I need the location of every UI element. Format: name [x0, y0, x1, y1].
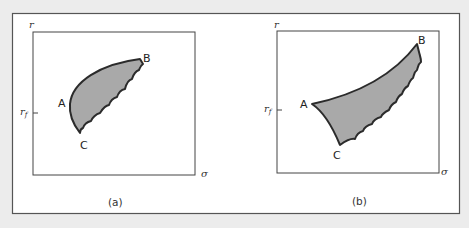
point-c-label-b: C [333, 149, 341, 162]
point-a-label-a: A [58, 97, 66, 110]
x-axis-label-a: σ [201, 168, 209, 179]
point-c-label-a: C [80, 139, 88, 152]
point-a-label-b: A [300, 98, 308, 111]
x-axis-label-b: σ [441, 166, 449, 177]
caption-b: (b) [352, 195, 367, 207]
figure: r σ rf A B C (a) r σ rf A B C (b) [0, 0, 469, 228]
caption-a: (a) [108, 196, 123, 208]
point-b-label-a: B [143, 52, 151, 65]
point-b-label-b: B [418, 34, 426, 47]
